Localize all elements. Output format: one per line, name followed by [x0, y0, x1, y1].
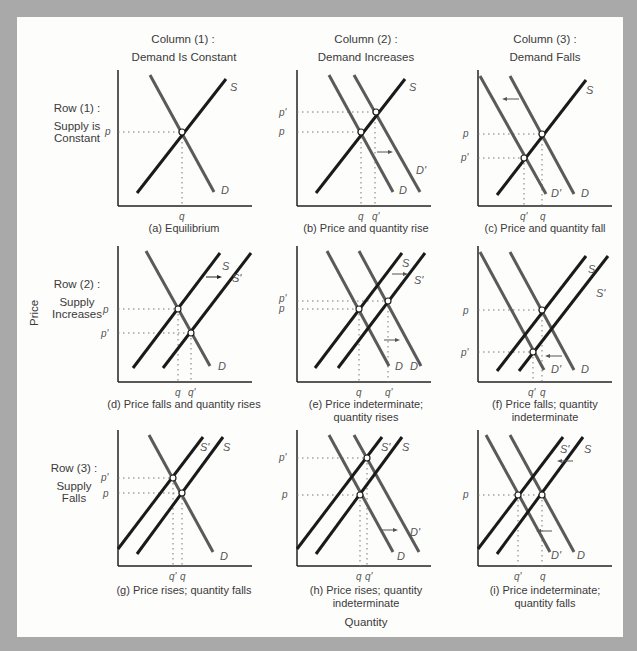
panel-i-caption: (i) Price indeterminate; quantity falls	[490, 584, 601, 610]
svg-text:p': p'	[278, 452, 288, 463]
svg-text:S: S	[409, 81, 417, 93]
svg-text:D: D	[577, 549, 585, 561]
column-1-title: Column (1) :	[151, 33, 214, 45]
panel-b-caption: (b) Price and quantity rise	[303, 222, 428, 235]
svg-text:q': q'	[372, 211, 381, 222]
svg-text:q': q'	[365, 571, 374, 582]
svg-text:D': D'	[551, 187, 562, 199]
svg-text:D': D'	[410, 526, 421, 538]
panel-i: S' S D' D p q' q	[478, 430, 618, 570]
svg-text:D: D	[397, 550, 405, 562]
panel-c-caption: (c) Price and quantity fall	[484, 222, 605, 235]
panel-a-graph: S D p q	[118, 70, 258, 210]
svg-text:S': S'	[200, 441, 210, 453]
panel-a: S D p q	[118, 70, 258, 210]
panel-i-caption-line1: (i) Price indeterminate;	[490, 584, 601, 597]
svg-text:D: D	[395, 360, 403, 372]
panel-b-graph: S D D' p' p q q'	[297, 70, 437, 210]
svg-text:S': S'	[232, 272, 242, 284]
y-axis-label: Price	[28, 300, 40, 326]
svg-text:p': p'	[460, 152, 470, 163]
panel-e-caption: (e) Price indeterminate; quantity rises	[309, 398, 423, 424]
row-1-label: Row (1) : Supply is Constant	[50, 100, 104, 144]
panel-f-graph: S S' D' D p p' q' q	[478, 246, 618, 386]
svg-text:S: S	[584, 443, 592, 455]
panel-e-caption-line1: (e) Price indeterminate;	[309, 398, 423, 411]
svg-text:S: S	[588, 263, 596, 275]
panel-c: S D' D p p' q' q	[478, 70, 618, 210]
svg-text:q: q	[356, 571, 362, 582]
svg-text:D: D	[220, 550, 228, 562]
row-1-line1: Supply is	[50, 120, 104, 132]
supply-curve-s	[137, 79, 226, 193]
svg-text:q: q	[356, 387, 362, 398]
svg-text:D: D	[221, 184, 229, 196]
panel-g-graph: S' S D p' p q' q	[118, 430, 258, 570]
svg-text:q: q	[358, 211, 364, 222]
column-1-subtitle: Demand Is Constant	[132, 51, 237, 63]
svg-text:S: S	[222, 260, 230, 272]
svg-text:S: S	[586, 84, 594, 96]
panel-d: S S' D p p' q q'	[118, 246, 258, 386]
svg-text:p': p'	[100, 328, 110, 339]
svg-text:D': D'	[551, 549, 562, 561]
svg-text:D': D'	[416, 164, 427, 176]
row-2-label: Row (2) : Supply Increases	[50, 276, 104, 320]
row-1-title: Row (1) :	[50, 100, 104, 116]
panel-d-caption-line1: (d) Price falls and quantity rises	[107, 398, 260, 411]
panel-a-caption-line1: (a) Equilibrium	[149, 222, 220, 235]
svg-text:p: p	[462, 489, 469, 500]
supply-curve-s	[316, 79, 405, 193]
svg-text:D': D'	[410, 360, 421, 372]
svg-text:D': D'	[551, 363, 562, 375]
svg-text:S: S	[402, 257, 410, 269]
svg-text:q': q'	[188, 387, 197, 398]
panel-d-graph: S S' D p p' q q'	[118, 246, 258, 386]
row-1-line2: Constant	[50, 132, 104, 144]
panel-h-caption: (h) Price rises; quantity indeterminate	[310, 584, 422, 610]
panel-b: S D D' p' p q q'	[297, 70, 437, 210]
panel-f-caption: (f) Price falls; quantity indeterminate	[492, 398, 598, 424]
svg-text:S: S	[402, 441, 410, 453]
panel-c-caption-line1: (c) Price and quantity fall	[484, 222, 605, 235]
svg-text:D: D	[581, 187, 589, 199]
svg-text:p: p	[462, 128, 469, 139]
svg-text:q': q'	[169, 571, 178, 582]
svg-text:S': S'	[596, 287, 606, 299]
column-3-subtitle: Demand Falls	[510, 51, 581, 63]
svg-text:D: D	[399, 184, 407, 196]
panel-g: S' S D p' p q' q	[118, 430, 258, 570]
panel-f-caption-line2: indeterminate	[492, 411, 598, 424]
column-2-title: Column (2) :	[334, 33, 397, 45]
column-3-title: Column (3) :	[513, 33, 576, 45]
panel-g-caption-line1: (g) Price rises; quantity falls	[116, 584, 251, 597]
panel-h-caption-line1: (h) Price rises; quantity	[310, 584, 422, 597]
svg-text:q': q'	[528, 387, 537, 398]
svg-text:p: p	[104, 126, 111, 137]
svg-text:p': p'	[100, 472, 110, 483]
svg-text:D: D	[218, 360, 226, 372]
row-3-line1: Supply	[47, 480, 101, 492]
panel-e-graph: S S' D D' p' p q q'	[297, 246, 437, 386]
panel-b-caption-line1: (b) Price and quantity rise	[303, 222, 428, 235]
svg-text:S': S'	[381, 441, 391, 453]
panel-c-graph: S D' D p p' q' q	[478, 70, 618, 210]
svg-text:q: q	[540, 211, 546, 222]
svg-text:S': S'	[560, 443, 570, 455]
svg-text:p': p'	[460, 347, 470, 358]
panel-h: S' S D' D p' p q q'	[297, 430, 437, 570]
svg-text:p: p	[278, 126, 285, 137]
svg-text:q: q	[179, 211, 185, 222]
svg-text:q': q'	[520, 211, 529, 222]
panel-g-caption: (g) Price rises; quantity falls	[116, 584, 251, 597]
row-2-line1: Supply	[50, 296, 104, 308]
svg-text:q: q	[175, 387, 181, 398]
x-axis-label: Quantity	[345, 616, 388, 628]
row-3-line2: Falls	[47, 492, 101, 504]
svg-text:p: p	[102, 488, 109, 499]
row-2-title: Row (2) :	[50, 276, 104, 292]
panel-a-caption: (a) Equilibrium	[149, 222, 220, 235]
svg-text:q': q'	[514, 571, 523, 582]
svg-text:S': S'	[414, 274, 424, 286]
svg-text:q': q'	[385, 387, 394, 398]
